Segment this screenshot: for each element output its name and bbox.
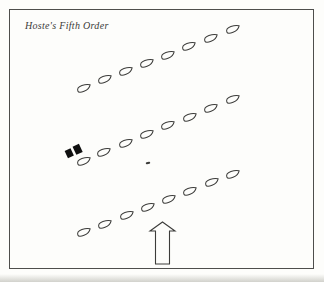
- ship-hull-icon: [77, 156, 92, 166]
- small-mark: [146, 161, 151, 164]
- ship-hull-icon: [162, 194, 177, 204]
- advance-arrow-icon: [150, 222, 175, 264]
- naval-formation-diagram: [0, 0, 324, 282]
- ship-hull-icon: [141, 202, 156, 212]
- ship-hull-icon: [98, 74, 113, 84]
- ship-row-top-column: [77, 24, 241, 93]
- ship-row-middle-column: [77, 94, 241, 166]
- ship-hull-icon: [226, 94, 241, 104]
- ship-hull-icon: [161, 50, 176, 60]
- ship-hull-icon: [204, 33, 219, 43]
- ship-hull-icon: [98, 219, 113, 229]
- flag-block: [73, 144, 83, 155]
- book-figure-page: Hoste's Fifth Order: [0, 0, 324, 282]
- ship-rows: [77, 24, 241, 237]
- flagship-marker-icon: [64, 144, 82, 159]
- ship-hull-icon: [120, 210, 135, 220]
- ship-hull-icon: [161, 120, 176, 130]
- ship-hull-icon: [183, 186, 198, 196]
- ship-hull-icon: [183, 112, 198, 122]
- flag-block: [65, 148, 74, 158]
- speck-mark: [146, 161, 151, 164]
- ship-hull-icon: [119, 138, 134, 148]
- ship-hull-icon: [204, 103, 219, 113]
- ship-hull-icon: [140, 129, 155, 139]
- ship-hull-icon: [226, 169, 241, 179]
- ship-hull-icon: [226, 24, 241, 34]
- ship-hull-icon: [182, 41, 197, 51]
- ship-hull-icon: [140, 58, 155, 68]
- ship-hull-icon: [97, 147, 112, 157]
- ship-hull-icon: [119, 66, 134, 76]
- ship-hull-icon: [205, 177, 220, 187]
- ship-hull-icon: [77, 227, 92, 237]
- ship-hull-icon: [77, 83, 92, 93]
- page-scan-edge: [0, 274, 324, 282]
